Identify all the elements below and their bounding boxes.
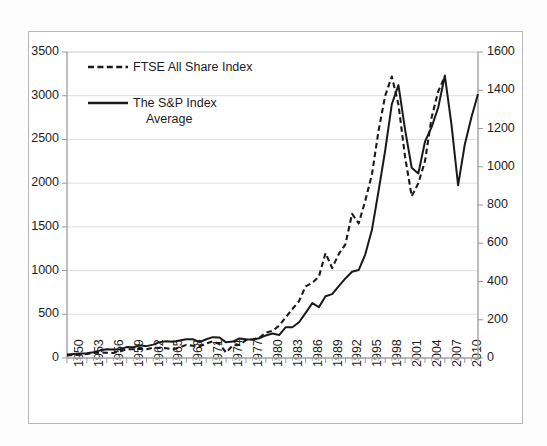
chart-figure: 3500300025002000150010005000160014001200… xyxy=(0,0,547,446)
x-axis-tickmarks xyxy=(67,358,478,363)
y-axis-right-tickmarks xyxy=(478,52,483,358)
legend-label-sp-line1: The S&P Index xyxy=(133,96,217,110)
chart-plot-svg xyxy=(0,0,547,446)
series-line-ftse xyxy=(67,76,445,355)
series-line-sp xyxy=(67,76,478,355)
legend-label-sp-line2: Average xyxy=(146,112,192,126)
gridlines xyxy=(67,52,478,358)
plot-area-border xyxy=(67,52,478,358)
legend-label-ftse: FTSE All Share Index xyxy=(133,60,253,74)
legend-line-samples xyxy=(88,67,128,103)
y-axis-left-tickmarks xyxy=(62,52,67,358)
data-series-lines xyxy=(67,76,478,356)
